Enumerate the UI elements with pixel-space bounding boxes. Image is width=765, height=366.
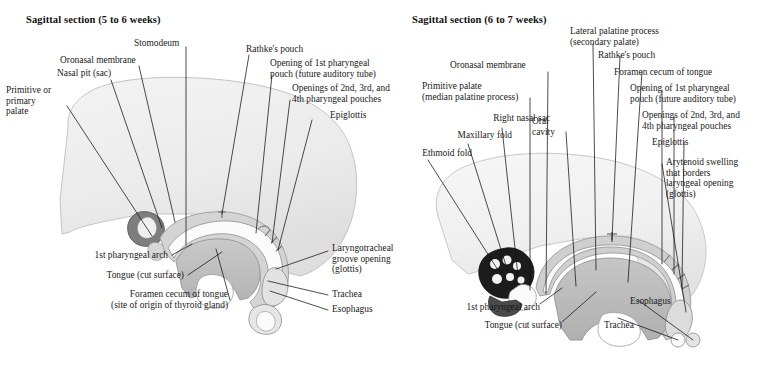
label-epiglottis: Epiglottis: [652, 137, 688, 148]
panel-sagittal-6-to-7-weeks: Sagittal section (6 to 7 weeks): [390, 0, 765, 366]
label-1st-pharyngeal-arch: 1st pharyngeal arch: [10, 250, 168, 261]
label-oral-cavity: Oral cavity: [532, 116, 555, 137]
label-ethmoid-fold: Ethmoid fold: [384, 148, 472, 159]
label-foramen-cecum-of-tongue: Foramen cecum of tongue (site of origin …: [10, 289, 228, 310]
label-tongue-cut-surface: Tongue (cut surface): [10, 270, 184, 281]
label-tongue-cut-surface: Tongue (cut surface): [390, 320, 562, 331]
label-laryngotracheal-groove-opening: Laryngotracheal groove opening (glottis): [332, 243, 393, 275]
label-opening-1st-pharyngeal-pouch: Opening of 1st pharyngeal pouch (future …: [270, 58, 376, 79]
label-openings-2nd-3rd-4th-pouches: Openings of 2nd, 3rd, and 4th pharyngeal…: [642, 110, 740, 131]
label-rathkes-pouch: Rathke's pouch: [246, 44, 303, 55]
label-openings-2nd-3rd-4th-pouches: Openings of 2nd, 3rd, and 4th pharyngeal…: [292, 83, 390, 104]
label-foramen-cecum-of-tongue: Foramen cecum of tongue: [614, 67, 712, 78]
panel-sagittal-5-to-6-weeks: Sagittal section (5 to 6 weeks): [0, 0, 390, 366]
label-epiglottis: Epiglottis: [330, 110, 366, 121]
label-oronasal-membrane: Oronasal membrane: [60, 55, 136, 66]
label-esophagus: Esophagus: [630, 296, 671, 307]
label-stomodeum: Stomodeum: [134, 38, 179, 49]
label-trachea: Trachea: [604, 320, 634, 331]
label-esophagus: Esophagus: [332, 304, 373, 315]
label-primitive-palate: Primitive palate (median palatine proces…: [422, 81, 518, 102]
label-nasal-pit-sac: Nasal pit (sac): [57, 68, 111, 79]
label-oronasal-membrane: Oronasal membrane: [450, 60, 526, 71]
label-arytenoid-swelling: Arytenoid swelling that borders laryngea…: [666, 157, 738, 199]
label-1st-pharyngeal-arch: 1st pharyngeal arch: [390, 302, 540, 313]
label-trachea: Trachea: [332, 289, 362, 300]
label-opening-1st-pharyngeal-pouch: Opening of 1st pharyngeal pouch (future …: [630, 83, 736, 104]
label-maxillary-fold: Maxillary fold: [384, 130, 512, 141]
label-primitive-or-primary-palate: Primitive or primary palate: [6, 85, 51, 117]
label-right-nasal-sac: Right nasal sac: [384, 113, 550, 124]
label-rathkes-pouch: Rathke's pouch: [598, 50, 655, 61]
label-lateral-palatine-process: Lateral palatine process (secondary pala…: [570, 26, 659, 47]
